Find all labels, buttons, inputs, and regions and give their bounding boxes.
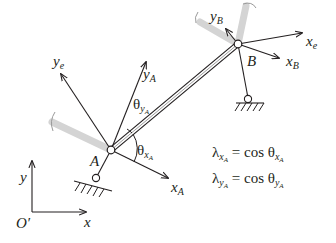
node-b-y-label: yB [208, 8, 223, 26]
node-b-label: B [247, 53, 256, 69]
truss-element-diagram: y x O′ ye xe yA xA θyA θxA yB xB [0, 0, 336, 243]
joint-b [234, 40, 242, 48]
element-x-label: xe [305, 33, 318, 51]
global-origin-label: O′ [16, 215, 31, 231]
node-a-label: A [89, 153, 100, 169]
global-y-label: y [18, 169, 27, 185]
node-a-local-axes: yA xA [111, 62, 185, 197]
node-a-x-label: xA [170, 179, 185, 197]
theta-x-label: θxA [137, 142, 154, 162]
global-x-label: x [83, 214, 91, 230]
equation-lambda-x: λxA = cos θxA [212, 144, 284, 164]
joint-a [107, 146, 115, 154]
global-axes: y x O′ [16, 161, 91, 231]
equation-lambda-y: λyA = cos θyA [212, 170, 284, 190]
node-a-y-label: yA [141, 66, 157, 84]
node-b-x-label: xB [285, 53, 299, 71]
direction-cosine-equations: λxA = cos θxA λyA = cos θyA [212, 144, 284, 190]
truss-member [111, 44, 238, 150]
element-y-label: ye [51, 53, 65, 71]
theta-y-label: θyA [133, 96, 150, 116]
